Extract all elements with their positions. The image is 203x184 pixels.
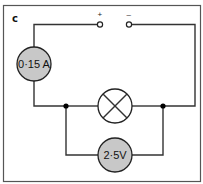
negative-terminal-icon (126, 22, 131, 27)
lamp (98, 89, 132, 123)
circuit-diagram: c + – 0·15 A 2·5V (0, 0, 203, 184)
ammeter: 0·15 A (17, 47, 51, 81)
ammeter-reading: 0·15 A (18, 58, 50, 70)
positive-terminal-icon (97, 22, 102, 27)
voltmeter-reading: 2·5V (103, 149, 127, 161)
junction-right-icon (160, 103, 165, 108)
panel-label: c (12, 13, 18, 24)
negative-terminal-label: – (127, 10, 132, 19)
junction-left-icon (63, 103, 68, 108)
voltmeter: 2·5V (98, 138, 132, 172)
positive-terminal-label: + (98, 10, 103, 19)
